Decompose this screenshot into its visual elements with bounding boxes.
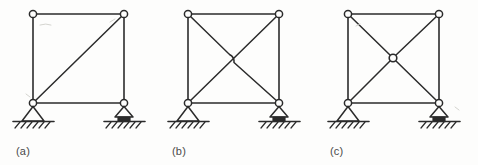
panel-a-faint-pencil-marks (26, 19, 115, 97)
figure-canvas: (a) (0, 0, 478, 165)
panel-a-frame-members (33, 14, 124, 103)
panel-c-label: (c) (330, 145, 343, 157)
panel-a: (a) (13, 10, 145, 157)
panel-c-pinned-support-triangle (337, 107, 359, 122)
panel-a-roller-support-hatching (106, 122, 141, 128)
panel-a-left-pinned-support (13, 107, 54, 129)
panel-c-roller-support-hatching (421, 122, 456, 128)
panel-c-joint-bottom-left (344, 99, 351, 106)
panel-c-pinned-support-hatching (330, 122, 365, 128)
panel-c-joint-top-left (344, 10, 351, 17)
panel-c-joint-top-right (435, 10, 442, 17)
panel-a-stray-mark-left (26, 94, 30, 97)
panel-a-pinned-support-triangle (22, 107, 44, 122)
panel-b-frame-members (188, 14, 279, 103)
panel-a-stray-mark-top (40, 24, 51, 25)
panel-b-right-roller-support (259, 107, 300, 129)
panel-c-brace-centre-to-top-right (396, 16, 438, 56)
panel-a-joint-bottom-left (29, 99, 36, 106)
panel-b-joint-top-right (275, 10, 282, 17)
panel-b-pinned-support-hatching (170, 122, 205, 128)
panel-a-diagonal-brace (35, 16, 123, 102)
panel-c-right-roller-support (419, 107, 460, 129)
panel-a-stray-mark-right (110, 19, 115, 22)
panel-c-left-pinned-support (328, 107, 369, 129)
panel-c-brace-top-left-to-centre (350, 16, 391, 56)
panel-c-stray-mark-right (455, 107, 459, 110)
panel-b-left-pinned-support (168, 107, 209, 129)
panel-b-roller-support-hatching (261, 122, 296, 128)
panel-a-joint-bottom-right (120, 99, 127, 106)
panel-c-joint-bottom-right (435, 99, 442, 106)
panel-a-pinned-support-hatching (15, 122, 50, 128)
panel-b: (b) (168, 10, 300, 157)
panel-c-roller-support-triangle (430, 107, 448, 118)
panel-b-joint-bottom-left (184, 99, 191, 106)
panel-c: (c) (328, 10, 460, 157)
panel-b-joint-bottom-right (275, 99, 282, 106)
panel-b-pinned-support-triangle (177, 107, 199, 122)
panel-a-roller-support-triangle (115, 107, 133, 118)
panel-c-brace-bottom-left-to-centre (350, 61, 391, 102)
panel-b-roller-support-triangle (270, 107, 288, 118)
panel-a-label: (a) (16, 145, 30, 157)
panel-a-joint-top-left (29, 10, 36, 17)
panel-c-joint-centre (389, 54, 397, 62)
panel-a-joint-top-right (120, 10, 127, 17)
panel-b-label: (b) (172, 145, 186, 157)
panel-b-joint-top-left (184, 10, 191, 17)
panel-a-right-roller-support (104, 107, 145, 129)
panel-c-brace-centre-to-bottom-right (396, 61, 438, 102)
structural-frames-figure: (a) (0, 0, 478, 165)
